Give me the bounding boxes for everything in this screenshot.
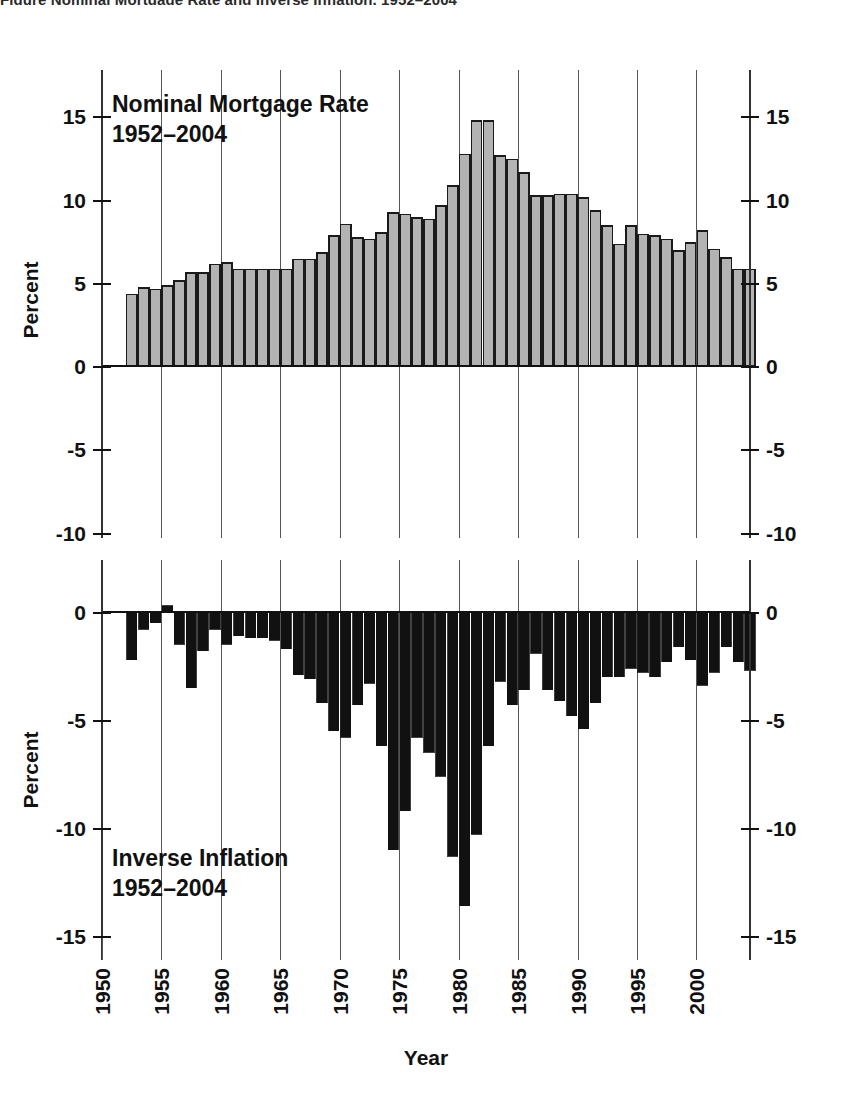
- bottom-bar: [269, 612, 279, 640]
- bottom-bar: [555, 612, 565, 701]
- bottom-panel: 00-5-5-10-10-15-15 Percent Inverse Infla…: [19, 560, 797, 960]
- bottom-bar: [305, 612, 315, 679]
- top-bar: [269, 269, 279, 366]
- top-bar: [471, 121, 481, 366]
- bottom-ytick-label-left: 0: [74, 601, 86, 624]
- bottom-bar: [733, 612, 743, 662]
- top-ytick-label-left: 10: [63, 189, 86, 212]
- bottom-bar: [281, 612, 291, 649]
- top-bar: [555, 195, 565, 367]
- top-ytick-label-left: -5: [67, 438, 86, 461]
- top-bar: [293, 259, 303, 366]
- x-tick-label: 1975: [388, 968, 411, 1015]
- bottom-bar: [412, 612, 422, 737]
- top-bar: [353, 238, 363, 366]
- top-bar: [127, 294, 137, 366]
- top-bar: [341, 224, 351, 366]
- bottom-bar: [436, 612, 446, 776]
- top-bar: [186, 273, 196, 366]
- top-ytick-label-right: 15: [766, 105, 790, 128]
- top-bar: [721, 258, 731, 366]
- bottom-bar: [471, 612, 481, 834]
- top-bar: [626, 226, 636, 366]
- bottom-bar: [139, 612, 149, 629]
- bottom-bar: [483, 612, 493, 746]
- top-bar: [709, 249, 719, 366]
- bottom-bar: [424, 612, 434, 752]
- bottom-bar: [246, 612, 256, 638]
- bottom-bar: [293, 612, 303, 675]
- bottom-bar: [507, 612, 517, 705]
- top-ytick-label-right: 0: [766, 355, 778, 378]
- figure-container: Figure Nominal Mortgage Rate and Inverse…: [0, 0, 844, 1115]
- top-bar: [234, 269, 244, 366]
- bottom-ytick-label-left: -10: [56, 817, 86, 840]
- bottom-bar: [341, 612, 351, 737]
- top-bar: [222, 263, 232, 366]
- bottom-ytick-label-left: -5: [67, 709, 86, 732]
- bottom-bar: [127, 612, 137, 660]
- top-ytick-label-left: 0: [74, 355, 86, 378]
- bottom-bar: [578, 612, 588, 729]
- top-bar: [590, 211, 600, 366]
- bottom-panel-subtitle: 1952–2004: [112, 875, 227, 901]
- bottom-bar: [495, 612, 505, 681]
- bottom-ytick-label-right: -5: [766, 709, 785, 732]
- bottom-bar: [376, 612, 386, 746]
- bottom-bar: [257, 612, 267, 638]
- top-bar: [567, 195, 577, 367]
- bottom-ytick-label-left: -15: [56, 925, 87, 948]
- bottom-bar: [222, 612, 232, 644]
- top-bar: [305, 259, 315, 366]
- top-bar: [674, 251, 684, 366]
- top-bar: [685, 243, 695, 366]
- top-panel-subtitle: 1952–2004: [112, 121, 227, 147]
- top-bar: [400, 214, 410, 366]
- bottom-bar: [697, 612, 707, 685]
- top-bar: [460, 155, 470, 366]
- bottom-panel-ylabel: Percent: [19, 731, 42, 808]
- bottom-bar: [721, 612, 731, 647]
- top-bar: [150, 289, 160, 366]
- bottom-bar: [674, 612, 684, 647]
- top-bar: [578, 198, 588, 366]
- x-tick-label: 1960: [210, 968, 233, 1015]
- bottom-bar: [590, 612, 600, 703]
- top-bar: [448, 186, 458, 366]
- bottom-bar: [388, 612, 398, 850]
- bottom-bar: [364, 612, 374, 683]
- top-bar: [317, 253, 327, 366]
- x-tick-label: 1985: [507, 968, 530, 1015]
- bottom-bar: [400, 612, 410, 811]
- top-bar: [424, 219, 434, 366]
- top-bar: [210, 264, 220, 366]
- bottom-bar: [662, 612, 672, 662]
- top-panel: 151510105500-5-5-10-10 Percent Nominal M…: [19, 70, 796, 545]
- top-bar: [162, 286, 172, 366]
- top-bar: [376, 233, 386, 366]
- top-panel-title: Nominal Mortgage Rate: [112, 91, 369, 117]
- top-bar: [638, 234, 648, 366]
- top-bar: [495, 156, 505, 366]
- top-bar: [281, 269, 291, 366]
- bottom-bar: [317, 612, 327, 703]
- bottom-bar: [602, 612, 612, 677]
- bottom-bar: [234, 612, 244, 636]
- top-bar: [364, 239, 374, 366]
- top-ytick-label-right: -10: [766, 522, 796, 545]
- bottom-bar: [198, 612, 208, 651]
- bottom-bar: [353, 612, 363, 705]
- bottom-bar: [543, 612, 553, 690]
- bottom-bar: [329, 612, 339, 731]
- top-ytick-label-left: -10: [56, 522, 86, 545]
- bottom-ytick-label-right: -10: [766, 817, 796, 840]
- bottom-bar: [709, 612, 719, 672]
- bottom-panel-title: Inverse Inflation: [112, 845, 288, 871]
- x-tick-label: 1990: [567, 968, 590, 1015]
- x-tick-label: 1970: [329, 968, 352, 1015]
- bottom-bar: [626, 612, 636, 668]
- bottom-bar: [210, 612, 220, 629]
- top-bar: [519, 173, 529, 366]
- top-bar: [329, 236, 339, 366]
- top-bar: [139, 288, 149, 366]
